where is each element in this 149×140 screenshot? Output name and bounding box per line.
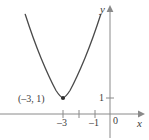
y-axis-arrowhead bbox=[107, 5, 114, 12]
x-tick-label-neg3: –3 bbox=[57, 118, 67, 128]
x-axis-label: x bbox=[137, 118, 142, 129]
graph-canvas bbox=[0, 0, 149, 140]
origin-label: 0 bbox=[113, 116, 118, 126]
parabola-curve bbox=[25, 14, 101, 98]
x-axis bbox=[0, 111, 145, 118]
vertex-coordinate-label: (–3, 1) bbox=[18, 94, 45, 104]
vertex-point-marker bbox=[61, 96, 65, 100]
y-tick-label-1: 1 bbox=[99, 93, 104, 103]
x-tick-label-neg1: –1 bbox=[89, 118, 99, 128]
y-axis-label: y bbox=[100, 4, 105, 15]
parabola-figure: y x 0 1 –3 –1 (–3, 1) bbox=[0, 0, 149, 140]
